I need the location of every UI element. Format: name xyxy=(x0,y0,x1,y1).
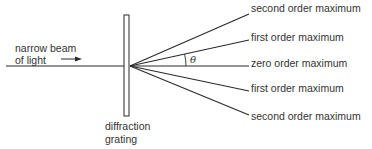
label-second-order-upper: second order maximum xyxy=(251,2,361,14)
incident-label: narrow beam of light xyxy=(15,42,76,66)
label-second-order-lower: second order maximum xyxy=(251,110,361,122)
ray-first-order-lower xyxy=(130,66,249,91)
label-first-order-upper: first order maximum xyxy=(251,31,344,43)
diffraction-grating xyxy=(124,15,129,116)
ray-second-order-lower xyxy=(130,66,249,115)
grating-label: diffraction grating xyxy=(105,120,150,146)
label-first-order-lower: first order maximum xyxy=(251,82,344,94)
angle-theta-label: θ xyxy=(190,54,196,66)
label-zero-order: zero order maximum xyxy=(251,57,347,69)
diffraction-diagram xyxy=(0,0,372,149)
angle-arc xyxy=(185,54,186,66)
